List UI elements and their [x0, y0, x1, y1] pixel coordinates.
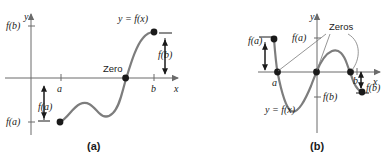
panel-b-label-zeros: Zeros — [329, 21, 354, 32]
panel-b-label-y-axis: y — [309, 11, 315, 22]
panel-b-label-a: a — [272, 77, 277, 88]
panel-b-label-fb-axis: f(b) — [323, 91, 338, 103]
panel-b-endpoint-b-dot — [359, 89, 366, 96]
panel-b-leader-zero-3 — [348, 34, 358, 70]
panel-b-label-curve: y = f(x) — [264, 104, 296, 116]
panel-b-label-fa-axis: f(a) — [292, 32, 307, 44]
panel-b-label-fa-measure: f(a) — [248, 35, 263, 47]
panel-b-curve-group — [271, 36, 366, 112]
figure-root: f(b) f(a) f(a) f(b) a b y x y = f(x) Zer… — [0, 0, 390, 163]
panel-b-caption: (b) — [310, 140, 324, 152]
panel-b-label-x-axis: x — [372, 76, 378, 87]
panel-b-curve — [274, 39, 362, 112]
panel-b-label-b: b — [353, 75, 358, 86]
panel-b-zeros-leaders — [278, 34, 358, 71]
panel-b-zero-2-dot — [313, 69, 320, 76]
panel-b-figure: f(a) f(a) f(b) f(b) a b y x y = f(x) Zer… — [0, 0, 390, 163]
